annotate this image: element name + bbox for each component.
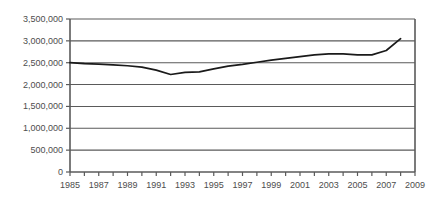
y-axis-tick-label: 2,000,000 bbox=[0, 80, 63, 90]
data-series-line bbox=[70, 39, 401, 75]
y-axis-tick-label: 1,500,000 bbox=[0, 101, 63, 111]
y-axis-tick-label: 500,000 bbox=[0, 145, 63, 155]
x-axis-tick-label: 2009 bbox=[395, 180, 435, 190]
y-axis-tick-label: 2,500,000 bbox=[0, 58, 63, 68]
y-axis-tick-label: 3,000,000 bbox=[0, 36, 63, 46]
y-axis-tick-label: 0 bbox=[0, 167, 63, 177]
y-axis-tick-label: 3,500,000 bbox=[0, 14, 63, 24]
y-axis-tick-label: 1,000,000 bbox=[0, 123, 63, 133]
line-chart: 0500,0001,000,0001,500,0002,000,0002,500… bbox=[0, 0, 437, 214]
gridlines bbox=[70, 19, 415, 150]
